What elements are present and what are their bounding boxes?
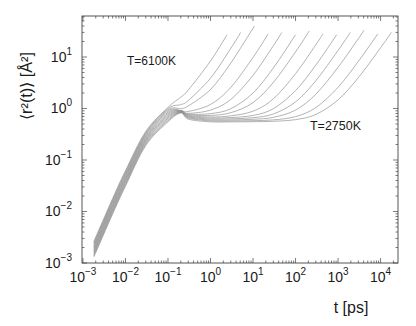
annotation-hot-temperature: T=6100K	[127, 53, 176, 68]
y-tick-label: 101	[51, 46, 73, 65]
tick-exponent: −1	[170, 266, 182, 277]
tick-exponent: −2	[61, 200, 73, 211]
msd-curve	[94, 35, 296, 248]
y-tick-label: 10−1	[45, 149, 72, 168]
x-tick-label: 102	[285, 266, 307, 285]
x-tick-label: 103	[327, 266, 349, 285]
tick-exponent: 0	[216, 266, 222, 277]
tick-exponent: −1	[61, 149, 73, 160]
x-tick-label: 104	[370, 266, 392, 285]
tick-exponent: 3	[343, 266, 349, 277]
tick-exponent: 2	[301, 266, 307, 277]
y-axis-title: ⟨r²(t)⟩ [Å²]	[17, 52, 35, 120]
msd-curve	[94, 32, 282, 246]
y-tick-label: 10−2	[45, 200, 72, 219]
annotation-cold-temperature: T=2750K	[310, 118, 361, 133]
msd-curve	[94, 34, 268, 246]
msd-plot: 10−310−210−110010110210310410−310−210−11…	[0, 0, 416, 326]
tick-exponent: 1	[66, 46, 72, 57]
x-tick-label: 101	[242, 266, 264, 285]
x-tick-label: 10−2	[112, 266, 139, 285]
x-tick-label: 100	[200, 266, 222, 285]
x-tick-label: 10−3	[69, 266, 96, 285]
tick-exponent: −3	[85, 266, 97, 277]
tick-exponent: 0	[66, 97, 72, 108]
y-tick-label: 10−3	[45, 252, 72, 271]
y-tick-label: 100	[51, 97, 73, 116]
tick-exponent: 1	[258, 266, 264, 277]
x-tick-label: 10−1	[154, 266, 181, 285]
chart-figure: 10−310−210−110010110210310410−310−210−11…	[0, 0, 416, 326]
tick-exponent: −3	[61, 252, 73, 263]
tick-exponent: 4	[386, 266, 392, 277]
tick-exponent: −2	[128, 266, 140, 277]
x-axis-title: t [ps]	[334, 299, 369, 316]
